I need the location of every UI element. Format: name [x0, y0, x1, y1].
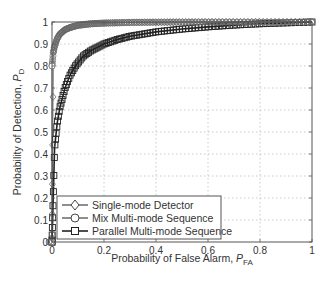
roc-chart: 00.20.40.60.8100.10.20.30.40.50.60.70.80… — [0, 0, 329, 284]
legend-label: Mix Multi-mode Sequence — [92, 212, 214, 224]
x-tick-label: 0 — [49, 245, 55, 256]
y-tick-label: 1 — [42, 17, 48, 28]
legend-label: Parallel Multi-mode Sequence — [92, 225, 232, 237]
circle-icon — [71, 214, 79, 222]
x-tick-label: 1 — [309, 245, 315, 256]
x-tick-label: 0.8 — [253, 245, 267, 256]
y-tick-label: 0.2 — [34, 193, 48, 204]
y-tick-label: 0.3 — [34, 171, 48, 182]
square-icon — [72, 228, 79, 235]
y-tick-label: 0.9 — [34, 39, 48, 50]
y-tick-label: 0.8 — [34, 61, 48, 72]
y-tick-label: 0.6 — [34, 105, 48, 116]
y-axis-label: Probability of Detection, PD — [11, 68, 26, 195]
y-tick-label: 0.1 — [34, 215, 48, 226]
y-tick-label: 0.4 — [34, 149, 48, 160]
y-tick-label: 0.5 — [34, 127, 48, 138]
y-tick-label: 0 — [42, 237, 48, 248]
legend-label: Single-mode Detector — [92, 199, 194, 211]
x-tick-label: 0.2 — [97, 245, 111, 256]
legend: Single-mode Detector Mix Multi-mode Sequ… — [57, 196, 232, 239]
x-axis-label: Probability of False Alarm, PFA — [111, 252, 253, 267]
y-tick-label: 0.7 — [34, 83, 48, 94]
